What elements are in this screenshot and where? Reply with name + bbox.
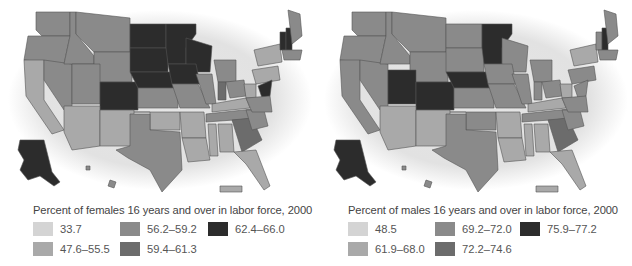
female-map — [0, 0, 316, 200]
legend-item: 59.4–61.3 — [120, 241, 197, 256]
legend-item: 61.9–68.0 — [348, 241, 425, 256]
male-map-panel: Percent of males 16 years and over in la… — [316, 0, 632, 266]
legend-label: 72.2–74.6 — [462, 243, 512, 255]
legend-swatch — [520, 222, 540, 236]
legend-label: 47.6–55.5 — [60, 243, 110, 255]
legend-item: 56.2–59.2 — [120, 221, 197, 236]
female-legend-title: Percent of females 16 years and over in … — [33, 204, 313, 216]
male-legend: Percent of males 16 years and over in la… — [348, 204, 628, 263]
legend-label: 59.4–61.3 — [147, 243, 197, 255]
legend-swatch — [208, 222, 228, 236]
legend-label: 62.4–66.0 — [235, 223, 285, 235]
legend-label: 61.9–68.0 — [375, 243, 425, 255]
legend-item: 48.5 — [348, 221, 397, 236]
legend-swatch — [33, 222, 53, 236]
legend-item: 33.7 — [33, 221, 82, 236]
female-legend: Percent of females 16 years and over in … — [33, 204, 313, 263]
legend-swatch — [120, 222, 140, 236]
legend-swatch — [435, 242, 455, 256]
female-map-panel: Percent of females 16 years and over in … — [0, 0, 316, 266]
legend-label: 48.5 — [375, 223, 397, 235]
legend-swatch — [348, 222, 368, 236]
male-map — [316, 0, 632, 200]
legend-swatch — [120, 242, 140, 256]
legend-label: 69.2–72.0 — [462, 223, 512, 235]
legend-swatch — [33, 242, 53, 256]
legend-item: 75.9–77.2 — [520, 221, 597, 236]
legend-label: 33.7 — [60, 223, 82, 235]
legend-item: 47.6–55.5 — [33, 241, 110, 256]
legend-label: 75.9–77.2 — [547, 223, 597, 235]
legend-label: 56.2–59.2 — [147, 223, 197, 235]
legend-swatch — [435, 222, 455, 236]
legend-item: 62.4–66.0 — [208, 221, 285, 236]
legend-item: 69.2–72.0 — [435, 221, 512, 236]
legend-swatch — [348, 242, 368, 256]
legend-item: 72.2–74.6 — [435, 241, 512, 256]
male-legend-title: Percent of males 16 years and over in la… — [348, 204, 628, 216]
